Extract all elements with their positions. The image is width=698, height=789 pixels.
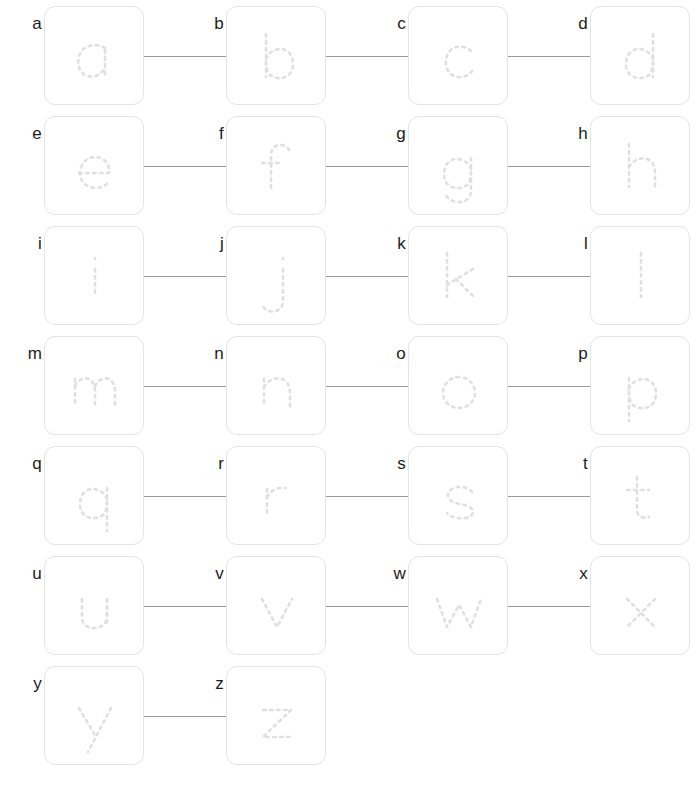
alphabet-tracing-worksheet: abcdefghijklmnopqrstuvwxyz <box>0 0 698 789</box>
tracing-box-b[interactable] <box>226 6 326 105</box>
connector-line-c <box>508 56 590 57</box>
letter-cell-w[interactable]: w <box>408 556 510 657</box>
tracing-box-f[interactable] <box>226 116 326 215</box>
dotted-letter-t-icon <box>591 447 691 546</box>
letter-cell-m[interactable]: m <box>44 336 146 437</box>
letter-cell-y[interactable]: y <box>44 666 146 767</box>
tracing-box-m[interactable] <box>44 336 144 435</box>
letter-label-j: j <box>184 234 224 254</box>
dotted-letter-v-icon <box>227 557 327 656</box>
letter-label-s: s <box>366 454 406 474</box>
tracing-box-z[interactable] <box>226 666 326 765</box>
dotted-letter-z-icon <box>227 667 327 766</box>
dotted-letter-q-icon <box>45 447 145 546</box>
letter-label-f: f <box>184 124 224 144</box>
dotted-letter-h-icon <box>591 117 691 216</box>
dotted-letter-a-icon <box>45 7 145 106</box>
connector-line-v <box>326 606 408 607</box>
dotted-letter-w-icon <box>409 557 509 656</box>
letter-label-t: t <box>548 454 588 474</box>
letter-label-m: m <box>2 344 42 364</box>
letter-cell-h[interactable]: h <box>590 116 692 217</box>
tracing-box-i[interactable] <box>44 226 144 325</box>
dotted-letter-l-icon <box>591 227 691 326</box>
dotted-letter-u-icon <box>45 557 145 656</box>
letter-cell-s[interactable]: s <box>408 446 510 547</box>
dotted-letter-s-icon <box>409 447 509 546</box>
tracing-box-x[interactable] <box>590 556 690 655</box>
letter-label-l: l <box>548 234 588 254</box>
letter-cell-q[interactable]: q <box>44 446 146 547</box>
tracing-box-o[interactable] <box>408 336 508 435</box>
tracing-box-r[interactable] <box>226 446 326 545</box>
tracing-box-y[interactable] <box>44 666 144 765</box>
letter-cell-d[interactable]: d <box>590 6 692 107</box>
connector-line-m <box>144 386 226 387</box>
connector-line-w <box>508 606 590 607</box>
tracing-box-n[interactable] <box>226 336 326 435</box>
letter-cell-i[interactable]: i <box>44 226 146 327</box>
tracing-box-e[interactable] <box>44 116 144 215</box>
tracing-box-u[interactable] <box>44 556 144 655</box>
tracing-box-j[interactable] <box>226 226 326 325</box>
letter-cell-f[interactable]: f <box>226 116 328 217</box>
letter-label-d: d <box>548 14 588 34</box>
connector-line-a <box>144 56 226 57</box>
letter-cell-x[interactable]: x <box>590 556 692 657</box>
dotted-letter-d-icon <box>591 7 691 106</box>
letter-cell-z[interactable]: z <box>226 666 328 767</box>
tracing-box-t[interactable] <box>590 446 690 545</box>
letter-label-c: c <box>366 14 406 34</box>
letter-label-b: b <box>184 14 224 34</box>
connector-line-j <box>326 276 408 277</box>
tracing-box-c[interactable] <box>408 6 508 105</box>
connector-line-f <box>326 166 408 167</box>
connector-line-k <box>508 276 590 277</box>
tracing-box-g[interactable] <box>408 116 508 215</box>
letter-cell-b[interactable]: b <box>226 6 328 107</box>
letter-label-x: x <box>548 564 588 584</box>
letter-cell-p[interactable]: p <box>590 336 692 437</box>
connector-line-o <box>508 386 590 387</box>
tracing-box-h[interactable] <box>590 116 690 215</box>
tracing-box-s[interactable] <box>408 446 508 545</box>
letter-cell-a[interactable]: a <box>44 6 146 107</box>
tracing-box-p[interactable] <box>590 336 690 435</box>
dotted-letter-y-icon <box>45 667 145 766</box>
letter-cell-o[interactable]: o <box>408 336 510 437</box>
tracing-box-d[interactable] <box>590 6 690 105</box>
letter-cell-l[interactable]: l <box>590 226 692 327</box>
letter-cell-n[interactable]: n <box>226 336 328 437</box>
dotted-letter-n-icon <box>227 337 327 436</box>
tracing-box-q[interactable] <box>44 446 144 545</box>
letter-cell-c[interactable]: c <box>408 6 510 107</box>
letter-label-g: g <box>366 124 406 144</box>
tracing-box-v[interactable] <box>226 556 326 655</box>
letter-label-h: h <box>548 124 588 144</box>
connector-line-y <box>144 716 226 717</box>
letter-cell-v[interactable]: v <box>226 556 328 657</box>
connector-line-n <box>326 386 408 387</box>
dotted-letter-m-icon <box>45 337 145 436</box>
tracing-box-k[interactable] <box>408 226 508 325</box>
dotted-letter-b-icon <box>227 7 327 106</box>
letter-label-k: k <box>366 234 406 254</box>
connector-line-s <box>508 496 590 497</box>
letter-cell-k[interactable]: k <box>408 226 510 327</box>
letter-label-y: y <box>2 674 42 694</box>
letter-label-v: v <box>184 564 224 584</box>
letter-cell-g[interactable]: g <box>408 116 510 217</box>
dotted-letter-j-icon <box>227 227 327 326</box>
letter-cell-e[interactable]: e <box>44 116 146 217</box>
connector-line-u <box>144 606 226 607</box>
letter-cell-r[interactable]: r <box>226 446 328 547</box>
connector-line-r <box>326 496 408 497</box>
letter-cell-j[interactable]: j <box>226 226 328 327</box>
tracing-box-w[interactable] <box>408 556 508 655</box>
dotted-letter-k-icon <box>409 227 509 326</box>
letter-cell-u[interactable]: u <box>44 556 146 657</box>
tracing-box-a[interactable] <box>44 6 144 105</box>
connector-line-g <box>508 166 590 167</box>
tracing-box-l[interactable] <box>590 226 690 325</box>
letter-cell-t[interactable]: t <box>590 446 692 547</box>
